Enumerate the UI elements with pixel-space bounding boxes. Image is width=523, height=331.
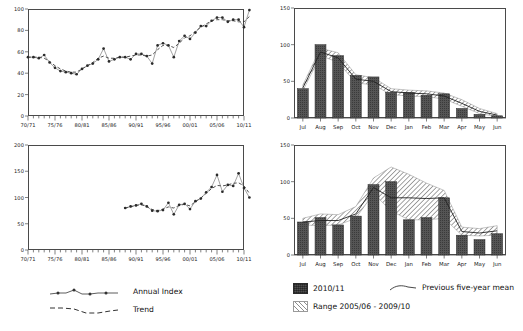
month-tick-label: Oct [351,261,360,267]
month-tick-label: Jul [300,261,307,267]
month-tick-label: Sep [333,124,343,130]
month-tick-label: Aug [315,261,326,267]
x-tick-label: 95/96 [155,256,170,262]
legend-label-annual-index: Annual Index [133,288,183,296]
y-tick-label: 80 [6,27,24,33]
x-tick-label: 80/81 [74,122,89,128]
legend-item-five-year-mean[interactable]: Previous five-year mean [389,283,514,293]
y-tick-label: 150 [272,142,290,148]
x-tick-label: 05/06 [209,122,224,128]
y-tick-label: 0 [272,252,290,258]
y-tick-label: 60 [6,49,24,55]
month-tick-label: Apr [457,124,466,130]
month-tick-label: Jun [493,124,501,130]
legend-item-range[interactable]: Range 2005/06 - 2009/10 [293,301,410,312]
month-tick-label: Sep [333,261,343,267]
trend-marker-icon [48,304,128,316]
legend-item-annual-index[interactable]: Annual Index [48,286,183,298]
legend-item-current-year[interactable]: 2010/11 [293,283,345,294]
y-tick-label: 20 [6,92,24,98]
series-layer-top-left [0,0,262,140]
x-tick-label: 00/01 [182,122,197,128]
x-tick-label: 10/11 [236,256,251,262]
x-tick-label: 05/06 [209,256,224,262]
month-tick-label: Dec [386,261,396,267]
y-tick-label: 100 [6,6,24,12]
x-tick-label: 70/71 [20,256,35,262]
y-tick-label: 200 [6,142,24,148]
x-tick-label: 85/86 [101,256,116,262]
y-tick-label: 50 [272,78,290,84]
month-tick-label: Aug [315,124,326,130]
month-tick-label: Feb [422,124,432,130]
legend-item-trend[interactable]: Trend [48,304,154,316]
month-tick-label: May [474,124,485,130]
month-tick-label: Jan [405,261,413,267]
x-tick-label: 95/96 [155,122,170,128]
y-tick-label: 100 [6,195,24,201]
month-tick-label: Mar [439,261,449,267]
current-year-swatch-icon [293,283,308,294]
y-tick-label: 100 [272,179,290,185]
month-tick-label: Jan [405,124,413,130]
chart-top-left: 020406080100 70/7175/7680/8185/8690/9195… [0,0,262,140]
y-tick-label: 0 [272,115,290,121]
legend-label-current-year: 2010/11 [313,285,345,293]
month-tick-label: Apr [457,261,466,267]
legend-label-trend: Trend [133,306,154,314]
x-tick-label: 00/01 [182,256,197,262]
month-tick-label: Jun [493,261,501,267]
month-tick-label: Dec [386,124,396,130]
x-tick-label: 75/76 [47,256,62,262]
month-tick-label: May [474,261,485,267]
month-tick-label: Mar [439,124,449,130]
month-tick-label: Nov [368,261,379,267]
chart-top-right: 050100150 JulAugSepOctNovDecJanFebMarApr… [262,0,523,140]
y-tick-label: 0 [6,247,24,253]
chart-bottom-right: 050100150 JulAugSepOctNovDecJanFebMarApr… [262,140,523,275]
y-tick-label: 0 [6,113,24,119]
x-tick-label: 90/91 [128,256,143,262]
y-tick-label: 150 [6,168,24,174]
x-tick-label: 70/71 [20,122,35,128]
month-tick-label: Nov [368,124,379,130]
series-layer-bottom-right [262,140,523,275]
range-swatch-icon [293,301,308,312]
mean-line-marker-icon [389,283,417,293]
figure-panel-grid: 020406080100 70/7175/7680/8185/8690/9195… [0,0,523,331]
x-tick-label: 85/86 [101,122,116,128]
month-tick-label: Jul [300,124,307,130]
y-tick-label: 100 [272,42,290,48]
annual-index-marker-icon [48,286,128,298]
y-tick-label: 40 [6,70,24,76]
legend-label-five-year-mean: Previous five-year mean [422,284,514,292]
month-tick-label: Feb [422,261,432,267]
x-tick-label: 90/91 [128,122,143,128]
x-tick-label: 75/76 [47,122,62,128]
series-layer-top-right [262,0,523,140]
y-tick-label: 50 [272,215,290,221]
chart-bottom-left: 050100150200 70/7175/7680/8185/8690/9195… [0,140,262,270]
legend-left: Annual Index Trend [0,272,262,331]
legend-right: 2010/11 Previous five-year mean Range 20… [262,275,523,331]
x-tick-label: 10/11 [236,122,251,128]
y-tick-label: 150 [272,5,290,11]
legend-label-range: Range 2005/06 - 2009/10 [313,303,410,311]
series-layer-bottom-left [0,140,262,270]
month-tick-label: Oct [351,124,360,130]
y-tick-label: 50 [6,221,24,227]
x-tick-label: 80/81 [74,256,89,262]
